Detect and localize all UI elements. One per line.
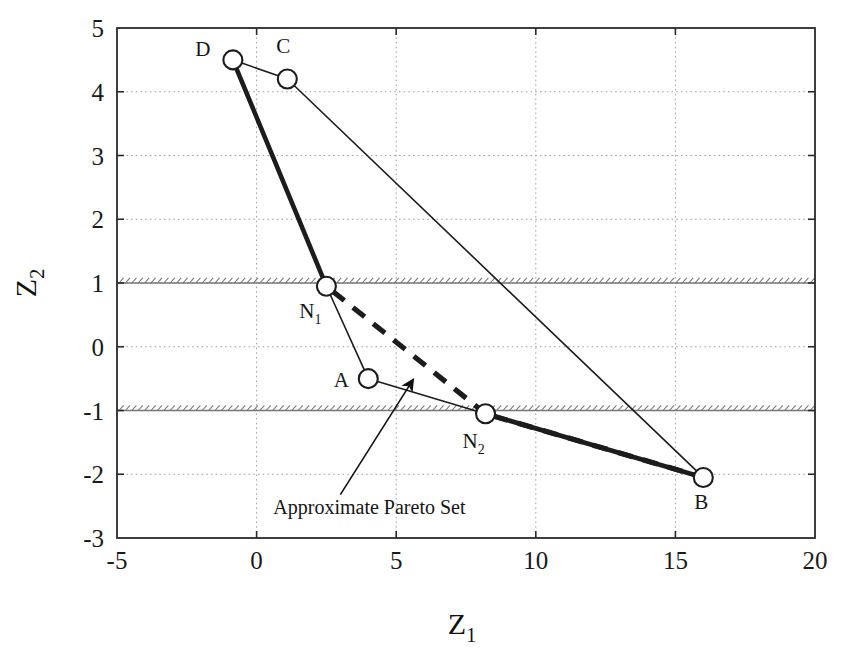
point-label-D: D bbox=[195, 37, 210, 61]
point-label-subscript: 1 bbox=[314, 312, 321, 327]
x-axis-title-subscript: 1 bbox=[466, 624, 476, 646]
point-label-A: A bbox=[334, 368, 350, 392]
x-tick-label: -5 bbox=[107, 547, 128, 574]
y-tick-label: -3 bbox=[83, 525, 104, 552]
data-point-C[interactable] bbox=[278, 70, 297, 89]
y-tick-label: 0 bbox=[92, 334, 105, 361]
data-point-A[interactable] bbox=[359, 369, 378, 388]
data-point-N2[interactable] bbox=[476, 404, 495, 423]
y-tick-label: 5 bbox=[92, 15, 105, 42]
x-tick-label: 20 bbox=[803, 547, 828, 574]
y-tick-label: 3 bbox=[92, 143, 105, 170]
x-tick-label: 5 bbox=[390, 547, 403, 574]
y-axis-title-subscript: 2 bbox=[26, 269, 48, 279]
y-tick-label: -1 bbox=[83, 398, 104, 425]
data-point-N1[interactable] bbox=[317, 277, 336, 296]
y-tick-label: 2 bbox=[92, 206, 105, 233]
x-tick-label: 10 bbox=[523, 547, 548, 574]
point-label-C: C bbox=[276, 34, 290, 58]
point-label-B: B bbox=[694, 490, 708, 514]
data-point-B[interactable] bbox=[694, 468, 713, 487]
x-tick-label: 15 bbox=[663, 547, 688, 574]
data-point-D[interactable] bbox=[223, 50, 242, 69]
point-label-subscript: 2 bbox=[478, 442, 485, 457]
y-tick-label: -2 bbox=[83, 461, 104, 488]
y-tick-label: 1 bbox=[92, 270, 105, 297]
y-tick-label: 4 bbox=[92, 79, 105, 106]
figure-canvas: Approximate Pareto Set DCN1AN2B -5051015… bbox=[0, 0, 849, 662]
pareto-scatter-chart: Approximate Pareto Set DCN1AN2B -5051015… bbox=[0, 0, 849, 662]
annotation-label: Approximate Pareto Set bbox=[273, 496, 466, 519]
x-tick-label: 0 bbox=[250, 547, 263, 574]
